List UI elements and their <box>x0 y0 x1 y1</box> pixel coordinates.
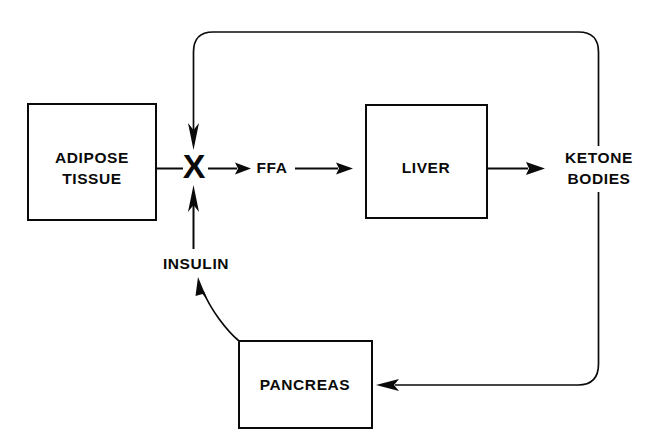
arrow-junction-to-ffa-head <box>235 163 251 175</box>
arrow-junction-to-ffa <box>208 163 251 175</box>
feedback-ketone-to-pancreas-path <box>395 192 599 385</box>
arrow-ffa-to-liver-head <box>336 163 353 175</box>
node-liver: LIVER <box>366 105 487 218</box>
arrow-liver-to-ketone-bodies <box>487 162 545 175</box>
feedback-ketone-to-pancreas <box>376 192 599 391</box>
adipose-tissue-label-line1: ADIPOSE <box>55 149 129 166</box>
node-pancreas: PANCREAS <box>239 341 372 428</box>
diagram-canvas: ADIPOSE TISSUE LIVER PANCREAS X FFA <box>0 0 663 447</box>
node-adipose-tissue: ADIPOSE TISSUE <box>28 104 156 220</box>
ffa-label: FFA <box>256 159 287 176</box>
liver-label: LIVER <box>402 159 451 176</box>
arrow-pancreas-to-insulin-head <box>196 277 209 301</box>
pancreas-label: PANCREAS <box>260 376 351 393</box>
ketone-bodies-label-line2: BODIES <box>567 170 630 187</box>
arrow-insulin-to-junction <box>188 185 199 249</box>
arrow-pancreas-to-insulin-path <box>203 291 239 341</box>
insulin-label: INSULIN <box>163 255 229 272</box>
adipose-tissue-label-line2: TISSUE <box>62 170 122 187</box>
ketone-bodies-label-line1: KETONE <box>565 149 633 166</box>
inhibition-x-symbol: X <box>183 147 206 185</box>
metabolic-flow-diagram: ADIPOSE TISSUE LIVER PANCREAS X FFA <box>0 0 663 447</box>
ketone-bodies-label-group: KETONE BODIES <box>565 149 633 187</box>
arrow-ffa-to-liver <box>295 163 353 175</box>
arrow-pancreas-to-insulin <box>196 277 240 341</box>
arrow-liver-to-ketone-head <box>526 162 545 175</box>
